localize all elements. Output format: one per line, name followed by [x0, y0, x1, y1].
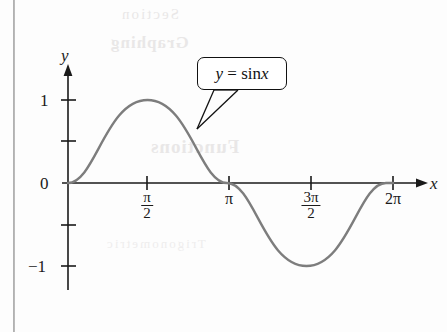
- y-axis-label: y: [61, 47, 69, 64]
- y-axis: [64, 64, 73, 290]
- x-tick-label-3pi-over-2: 3π 2: [301, 190, 320, 222]
- x-axis: [62, 179, 428, 188]
- x-tick-label-2pi: 2π: [385, 191, 401, 207]
- fraction-numerator: 3π: [301, 190, 320, 205]
- fraction-numerator: π: [141, 190, 153, 205]
- x-tick-label-pi-over-2: π 2: [141, 190, 153, 222]
- y-tick-label-1: 1: [40, 92, 49, 109]
- callout-leader: [197, 90, 238, 129]
- y-tick-label-0: 0: [40, 175, 49, 192]
- figure-root: Section Graphing Functions Trigonometric: [0, 0, 447, 332]
- fraction-3pi-over-2: 3π 2: [301, 190, 320, 222]
- fraction-denominator: 2: [301, 205, 320, 221]
- y-tick-label-neg1: −1: [28, 258, 46, 275]
- equation-function-name: sin: [241, 64, 261, 83]
- fraction-denominator: 2: [141, 205, 153, 221]
- equation-equals: =: [223, 64, 241, 83]
- equation-lhs: y: [215, 64, 223, 83]
- equation-callout-box: y = sinx: [197, 57, 287, 90]
- x-tick-label-pi: π: [225, 191, 233, 207]
- equation-argument: x: [261, 64, 269, 83]
- equation-callout-text: y = sinx: [198, 64, 286, 84]
- x-axis-label: x: [430, 175, 438, 192]
- fraction-pi-over-2: π 2: [141, 190, 153, 222]
